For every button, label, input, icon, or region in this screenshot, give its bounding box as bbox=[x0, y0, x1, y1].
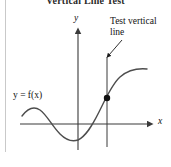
x-axis-label: x bbox=[158, 116, 162, 127]
function-curve bbox=[22, 69, 147, 141]
y-axis-label: y bbox=[74, 13, 78, 24]
callout-arrow-icon bbox=[109, 40, 122, 55]
test-vertical-line-label: Test vertical line bbox=[110, 16, 168, 38]
intersection-point bbox=[104, 95, 110, 101]
function-equation-label: y = f(x) bbox=[13, 90, 42, 101]
vertical-line-test-figure: Vertical Line Test Test vertical line y … bbox=[0, 0, 171, 167]
